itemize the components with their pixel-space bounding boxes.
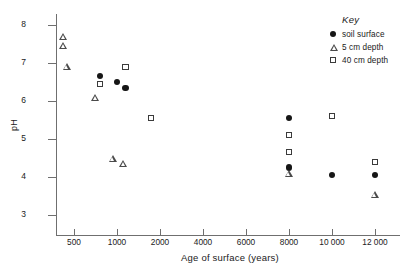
legend-entry: 40 cm depth [330,54,410,66]
marker-glyph [330,31,336,37]
legend-entry: 5 cm depth [330,41,410,53]
x-tick-label: 8000 [266,238,312,247]
data-point-open-triangle [91,94,99,101]
legend-marker-filled-circle-icon [330,28,342,40]
marker-glyph [330,57,336,63]
scatter-chart: 345678 5001000200040006000800010 00012 0… [0,0,410,271]
x-tick [117,229,118,235]
legend-entry-label: 40 cm depth [342,56,388,65]
legend-entry: soil surface [330,28,410,40]
data-point-filled-circle [97,73,103,79]
data-point-filled-circle [329,172,335,178]
y-tick [48,63,56,64]
y-tick-label: 7 [0,58,26,66]
x-tick-label: 2000 [137,238,183,247]
marker-glyph [330,44,338,51]
legend-entry-label: 5 cm depth [342,43,384,52]
legend-marker-open-square-icon [330,54,342,66]
y-tick [48,25,56,26]
data-point-open-triangle [59,42,67,49]
legend-entries: soil surface5 cm depth40 cm depth [330,28,410,66]
x-tick-label: 12 000 [352,238,398,247]
x-tick [332,229,333,235]
legend-title: Key [342,14,410,25]
data-point-open-square [97,81,103,87]
legend-entry-label: soil surface [342,30,385,39]
data-point-filled-circle [286,115,292,121]
y-tick-label: 3 [0,210,26,218]
y-axis-line [56,14,57,236]
x-axis-title: Age of surface (years) [130,252,330,263]
data-point-open-square [286,132,292,138]
y-tick-label: 8 [0,20,26,28]
x-tick-label: 500 [51,238,97,247]
data-point-open-square [372,159,378,165]
y-tick [48,101,56,102]
y-tick [48,215,56,216]
data-point-open-square [122,64,128,70]
x-tick-label: 1000 [94,238,140,247]
data-point-open-square [148,115,154,121]
data-point-open-triangle [63,63,71,70]
x-tick-label: 6000 [223,238,269,247]
data-point-open-square [329,113,335,119]
data-point-open-triangle [285,170,293,177]
legend-marker-open-triangle-icon [330,41,342,53]
x-tick [160,229,161,235]
x-tick [246,229,247,235]
data-point-filled-circle [372,172,378,178]
data-point-filled-circle [122,85,128,91]
x-tick [375,229,376,235]
data-point-open-triangle [59,33,67,40]
y-tick-label: 6 [0,96,26,104]
data-point-open-triangle [119,160,127,167]
data-point-open-triangle [371,191,379,198]
x-tick [289,229,290,235]
y-tick-label: 4 [0,172,26,180]
chart-legend: Key soil surface5 cm depth40 cm depth [330,14,410,67]
x-axis-line [56,235,400,236]
x-tick [74,229,75,235]
y-tick [48,139,56,140]
y-axis-title: pH [9,105,19,145]
data-point-filled-circle [114,79,120,85]
y-tick [48,177,56,178]
data-point-open-square [286,149,292,155]
x-tick-label: 4000 [180,238,226,247]
x-tick-label: 10 000 [309,238,355,247]
data-point-open-triangle [109,155,117,162]
x-tick [203,229,204,235]
